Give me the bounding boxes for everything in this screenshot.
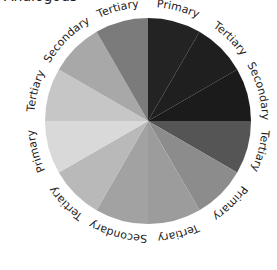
wheel-label: Tertiary: [156, 221, 202, 245]
color-wheel: PrimaryTertiarySecondaryTertiaryPrimaryT…: [0, 0, 277, 270]
wheel-segments: [45, 18, 251, 224]
wheel-label: Tertiary: [24, 68, 48, 114]
wheel-label: Tertiary: [248, 129, 272, 175]
wheel-label: Primary: [24, 129, 48, 175]
wheel-label: Primary: [156, 0, 202, 21]
wheel-label: Tertiary: [94, 0, 140, 21]
